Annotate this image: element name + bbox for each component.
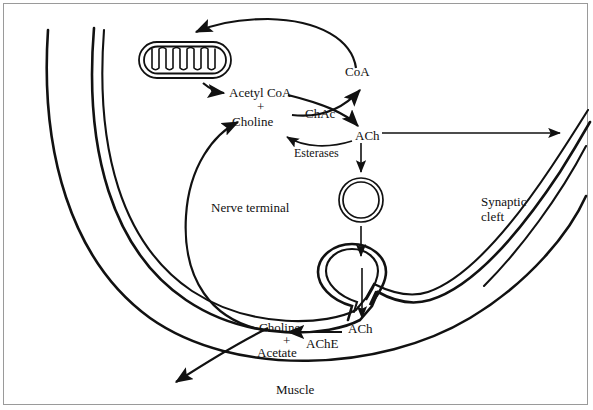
label-muscle: Muscle xyxy=(276,382,315,397)
label-chac-enzyme: ChAc xyxy=(305,106,336,121)
mitochondrion-organelle xyxy=(139,42,231,78)
label-choline-bottom: Choline xyxy=(259,320,300,335)
label-choline-top: Choline xyxy=(232,114,273,129)
label-synaptic-cleft-line2: cleft xyxy=(481,209,504,224)
label-esterases-enzyme: Esterases xyxy=(294,146,339,160)
arrow-choline-reuptake xyxy=(186,122,263,330)
arrow-ach-to-choline-esterases xyxy=(287,137,352,146)
label-ache-enzyme: AChE xyxy=(306,336,339,351)
label-plus-top: + xyxy=(257,99,264,114)
label-coa: CoA xyxy=(345,64,370,79)
label-acetate: Acetate xyxy=(257,345,297,360)
synaptic-vesicle xyxy=(339,178,383,222)
neuromuscular-junction-diagram: CoA Acetyl CoA + Choline ChAc ACh Estera… xyxy=(0,0,593,410)
label-ach-bottom: ACh xyxy=(348,321,373,336)
fusing-vesicle-omega xyxy=(318,244,386,320)
label-nerve-terminal: Nerve terminal xyxy=(211,200,290,215)
label-ach-top: ACh xyxy=(355,128,380,143)
arrow-mitochondrion-to-acetyl-coa xyxy=(203,83,224,93)
arrow-signal-to-muscle xyxy=(176,328,268,382)
label-acetyl-coa: Acetyl CoA xyxy=(229,85,292,100)
label-synaptic-cleft-line1: Synaptic xyxy=(481,194,527,209)
diagram-canvas: CoA Acetyl CoA + Choline ChAc ACh Estera… xyxy=(0,0,593,410)
